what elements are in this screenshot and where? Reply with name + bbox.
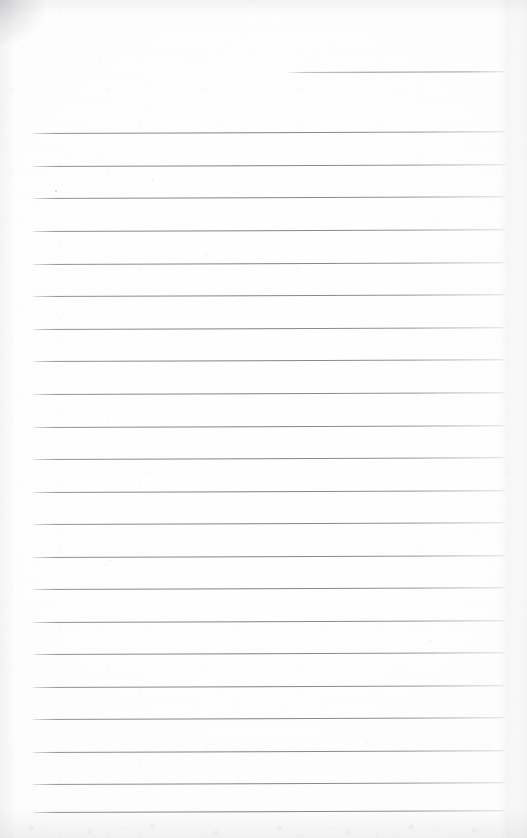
ruled-line bbox=[33, 294, 505, 297]
ruled-line bbox=[33, 717, 505, 720]
ruled-line bbox=[33, 555, 505, 558]
ruled-line bbox=[33, 685, 505, 688]
ruled-line bbox=[33, 164, 505, 167]
ruled-line bbox=[33, 262, 505, 265]
ruled-line bbox=[33, 392, 505, 395]
ruled-line bbox=[33, 457, 505, 460]
ruled-line bbox=[33, 196, 505, 199]
ruled-lines-layer bbox=[0, 0, 527, 838]
ruled-line bbox=[33, 490, 505, 493]
ruled-line bbox=[33, 327, 505, 330]
ruled-line bbox=[33, 782, 505, 785]
ruled-line bbox=[33, 620, 505, 623]
scanned-page bbox=[0, 0, 527, 838]
ruled-line bbox=[33, 522, 505, 525]
ruled-line bbox=[33, 131, 505, 134]
ruled-line bbox=[33, 587, 505, 590]
ruled-line bbox=[33, 425, 505, 428]
ruled-line bbox=[33, 750, 505, 753]
ruled-line bbox=[33, 652, 505, 655]
ruled-line bbox=[33, 359, 505, 362]
ruled-line-short bbox=[287, 71, 505, 73]
ruled-line bbox=[33, 810, 505, 813]
ruled-line bbox=[33, 229, 505, 232]
